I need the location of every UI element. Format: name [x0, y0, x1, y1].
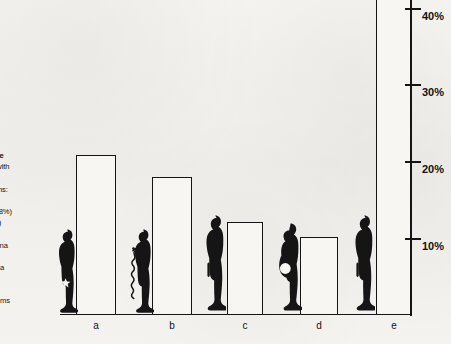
y-axis-tick-label: 10%: [422, 241, 444, 252]
y-axis-tick-label: 40%: [422, 11, 444, 22]
bar-chart-plot-area: a b c d e: [0, 0, 451, 344]
bar-b: [152, 177, 192, 315]
y-axis-line: [410, 0, 412, 316]
bar-label-e: e: [376, 320, 412, 331]
woman-figure-with-snake-icon: [128, 229, 154, 315]
bar-label-d: d: [300, 320, 338, 331]
woman-figure-with-star-icon: [56, 229, 78, 315]
y-axis-tick: [405, 8, 421, 10]
chart-page: riage en with ges asons: ) (17.8%) .7%) …: [0, 0, 451, 344]
pregnant-woman-figure-icon: [276, 223, 302, 315]
bar-d: [300, 237, 338, 315]
y-axis-tick: [405, 161, 421, 163]
woman-figure-icon: [353, 215, 375, 315]
bar-label-c: c: [227, 320, 263, 331]
y-axis-tick: [405, 84, 421, 86]
y-axis-tick-label: 20%: [422, 164, 444, 175]
woman-figure-icon: [204, 215, 226, 315]
y-axis-tick: [405, 238, 421, 240]
bar-label-b: b: [152, 320, 192, 331]
bar-a: [76, 155, 116, 315]
bar-label-a: a: [76, 320, 116, 331]
bar-c: [227, 222, 263, 315]
bar-e: [376, 0, 412, 315]
y-axis-tick-label: 30%: [422, 87, 444, 98]
